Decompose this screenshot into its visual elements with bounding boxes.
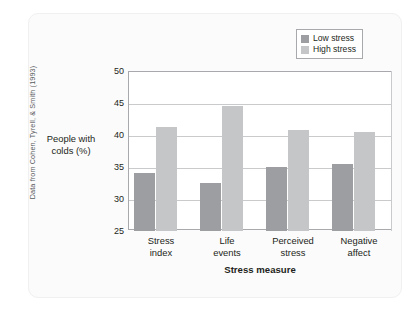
- x-category-label-line: Stress: [128, 235, 194, 247]
- y-axis-title: People withcolds (%): [38, 133, 104, 157]
- y-axis-tick-labels: 504540353025: [100, 0, 124, 312]
- legend-item-low-stress[interactable]: Low stress: [301, 33, 356, 44]
- y-axis-title-line: People with: [38, 133, 104, 145]
- x-category-label-line: Negative: [326, 235, 392, 247]
- x-category-label-line: Perceived: [260, 235, 326, 247]
- bar-group: [128, 71, 194, 231]
- bar-low-stress[interactable]: [134, 173, 155, 231]
- bar-group: [326, 71, 392, 231]
- y-tick-label: 40: [102, 131, 124, 140]
- legend-swatch-icon: [301, 35, 309, 43]
- bar-low-stress[interactable]: [266, 167, 287, 231]
- x-axis-category-labels: StressindexLifeeventsPerceivedstressNega…: [128, 235, 392, 263]
- legend-label: High stress: [313, 44, 356, 55]
- x-category-label-line: Life: [194, 235, 260, 247]
- x-category-label: Negativeaffect: [326, 235, 392, 258]
- y-tick-label: 50: [102, 67, 124, 76]
- x-category-label: Lifeevents: [194, 235, 260, 258]
- y-tick-label: 35: [102, 163, 124, 172]
- legend-label: Low stress: [313, 33, 354, 44]
- bar-group: [194, 71, 260, 231]
- legend-swatch-icon: [301, 46, 309, 54]
- source-credit: Data from Cohen, Tyrell, & Smith (1993): [28, 53, 37, 213]
- bar-series-container: [128, 71, 392, 231]
- bar-low-stress[interactable]: [332, 164, 353, 231]
- y-tick-label: 30: [102, 195, 124, 204]
- bar-high-stress[interactable]: [156, 127, 177, 231]
- figure: Data from Cohen, Tyrell, & Smith (1993) …: [0, 0, 413, 312]
- x-axis-title: Stress measure: [128, 264, 392, 275]
- bar-group: [260, 71, 326, 231]
- x-category-label-line: affect: [326, 247, 392, 259]
- x-category-label-line: stress: [260, 247, 326, 259]
- bar-low-stress[interactable]: [200, 183, 221, 231]
- bar-high-stress[interactable]: [222, 106, 243, 231]
- bar-high-stress[interactable]: [354, 132, 375, 231]
- x-category-label: Stressindex: [128, 235, 194, 258]
- bar-high-stress[interactable]: [288, 130, 309, 231]
- y-axis-title-line: colds (%): [38, 145, 104, 157]
- x-category-label: Perceivedstress: [260, 235, 326, 258]
- x-category-label-line: index: [128, 247, 194, 259]
- x-category-label-line: events: [194, 247, 260, 259]
- legend-item-high-stress[interactable]: High stress: [301, 44, 356, 55]
- y-tick-label: 45: [102, 99, 124, 108]
- chart-legend: Low stressHigh stress: [296, 29, 363, 59]
- y-tick-label: 25: [102, 227, 124, 236]
